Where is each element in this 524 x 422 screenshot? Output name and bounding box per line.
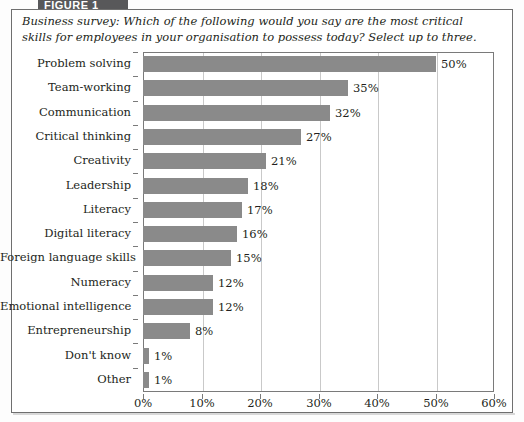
bar-value-label: 12% xyxy=(218,300,244,314)
bar xyxy=(143,129,301,145)
bar-value-label: 8% xyxy=(195,324,213,338)
y-axis-tick xyxy=(133,343,138,344)
bar xyxy=(143,372,149,388)
y-axis-tick xyxy=(133,222,138,223)
x-axis-tick xyxy=(436,394,437,399)
bar-value-label: 27% xyxy=(306,130,332,144)
y-axis-tick xyxy=(133,76,138,77)
y-axis-tick xyxy=(133,271,138,272)
category-label: Other xyxy=(0,372,138,386)
category-label: Leadership xyxy=(0,178,138,192)
bar-row: 18% xyxy=(143,178,494,194)
y-axis-tick xyxy=(133,319,138,320)
bar xyxy=(143,348,149,364)
y-axis-tick xyxy=(133,149,138,150)
chart-root: FIGURE 1 Business survey: Which of the f… xyxy=(0,0,524,422)
bar-row: 1% xyxy=(143,372,494,388)
category-label: Problem solving xyxy=(0,56,138,70)
category-label: Creativity xyxy=(0,153,138,167)
bar-row: 17% xyxy=(143,202,494,218)
bar-series: 50%35%32%27%21%18%17%16%15%12%12%8%1%1% xyxy=(143,52,494,392)
y-axis-tick xyxy=(133,173,138,174)
chart-title: Business survey: Which of the following … xyxy=(22,14,492,45)
bar-row: 1% xyxy=(143,348,494,364)
x-axis-tick xyxy=(494,394,495,399)
y-axis-tick xyxy=(133,101,138,102)
bar-value-label: 50% xyxy=(441,57,467,71)
y-axis-tick xyxy=(133,52,138,53)
bar-value-label: 32% xyxy=(335,106,361,120)
bar-value-label: 17% xyxy=(247,203,273,217)
y-axis-tick xyxy=(133,246,138,247)
category-label: Emotional intelligence xyxy=(0,299,138,313)
category-label: Literacy xyxy=(0,202,138,216)
bar xyxy=(143,323,190,339)
bar xyxy=(143,80,348,96)
y-axis-tick xyxy=(133,295,138,296)
category-label: Digital literacy xyxy=(0,226,138,240)
bar xyxy=(143,250,231,266)
bar xyxy=(143,275,213,291)
category-label: Communication xyxy=(0,105,138,119)
bar xyxy=(143,56,436,72)
bar-row: 27% xyxy=(143,129,494,145)
y-axis-labels: Problem solvingTeam-workingCommunication… xyxy=(0,52,138,392)
bar-value-label: 1% xyxy=(154,373,172,387)
bar-value-label: 18% xyxy=(253,179,279,193)
bar-value-label: 15% xyxy=(236,251,262,265)
category-label: Foreign language skills xyxy=(0,250,138,264)
x-axis-tick xyxy=(202,394,203,399)
y-axis-tick xyxy=(133,368,138,369)
x-axis-tick xyxy=(260,394,261,399)
y-axis-tick xyxy=(133,198,138,199)
bar-value-label: 16% xyxy=(242,227,268,241)
bar xyxy=(143,226,237,242)
bar-row: 15% xyxy=(143,250,494,266)
bar-value-label: 1% xyxy=(154,349,172,363)
bar xyxy=(143,202,242,218)
bar xyxy=(143,178,248,194)
bar-value-label: 35% xyxy=(353,81,379,95)
bar-row: 12% xyxy=(143,299,494,315)
bar-row: 21% xyxy=(143,153,494,169)
bar-row: 8% xyxy=(143,323,494,339)
bar-row: 35% xyxy=(143,80,494,96)
category-label: Entrepreneurship xyxy=(0,323,138,337)
x-axis-tick xyxy=(319,394,320,399)
x-axis-tick xyxy=(143,394,144,399)
category-label: Numeracy xyxy=(0,275,138,289)
y-axis-tick xyxy=(133,125,138,126)
bar xyxy=(143,105,330,121)
category-label: Critical thinking xyxy=(0,129,138,143)
category-label: Don't know xyxy=(0,348,138,362)
bar xyxy=(143,299,213,315)
bar-value-label: 12% xyxy=(218,276,244,290)
bar-value-label: 21% xyxy=(271,154,297,168)
bar-row: 16% xyxy=(143,226,494,242)
bar-row: 50% xyxy=(143,56,494,72)
bar xyxy=(143,153,266,169)
x-axis-tick xyxy=(377,394,378,399)
category-label: Team-working xyxy=(0,80,138,94)
x-axis-labels: 0%10%20%30%40%50%60% xyxy=(143,394,494,414)
bar-row: 32% xyxy=(143,105,494,121)
bar-row: 12% xyxy=(143,275,494,291)
